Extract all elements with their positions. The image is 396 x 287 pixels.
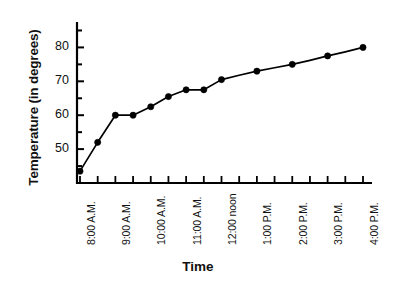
x-tick-label: 10:00 A.M. <box>155 196 167 245</box>
data-series-line <box>80 47 363 171</box>
y-tick-label: 80 <box>39 39 69 53</box>
data-point-marker[interactable] <box>254 68 260 74</box>
data-point-marker[interactable] <box>148 104 154 110</box>
x-tick-label: 11:00 A.M. <box>191 197 203 245</box>
x-tick-label: 8:00 A.M. <box>85 202 97 245</box>
data-point-marker[interactable] <box>112 112 118 118</box>
data-point-marker[interactable] <box>325 53 331 59</box>
x-tick-label: 2:00 P.M. <box>297 202 309 245</box>
x-tick-label: 4:00 P.M. <box>368 202 380 245</box>
y-tick-label: 50 <box>39 141 69 155</box>
y-tick-label: 60 <box>39 107 69 121</box>
x-tick-label: 3:00 P.M. <box>332 202 344 245</box>
data-point-marker[interactable] <box>289 61 295 67</box>
data-point-marker[interactable] <box>130 112 136 118</box>
data-point-marker[interactable] <box>360 44 366 50</box>
temperature-line-chart: Temperature (in degrees) Time 50607080 8… <box>0 0 396 287</box>
data-point-marker[interactable] <box>165 93 171 99</box>
data-point-marker[interactable] <box>77 168 83 174</box>
data-point-marker[interactable] <box>95 139 101 145</box>
data-point-marker[interactable] <box>183 87 189 93</box>
x-tick-label: 9:00 A.M. <box>120 202 132 245</box>
x-tick-label: 1:00 P.M. <box>261 202 273 245</box>
data-point-marker[interactable] <box>201 87 207 93</box>
y-tick-label: 70 <box>39 73 69 87</box>
data-point-marker[interactable] <box>218 77 224 83</box>
x-tick-label: 12:00 noon <box>226 193 238 245</box>
x-axis-title: Time <box>0 259 396 274</box>
